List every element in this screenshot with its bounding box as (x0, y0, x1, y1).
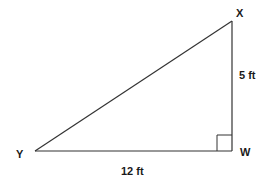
vertex-label-w: W (240, 146, 251, 158)
side-xy-hypotenuse (35, 21, 232, 151)
side-label-xw: 5 ft (239, 69, 256, 81)
right-triangle-diagram: X W Y 5 ft 12 ft (0, 0, 275, 187)
side-label-yw: 12 ft (121, 165, 144, 177)
vertex-label-y: Y (16, 148, 24, 160)
right-angle-marker (217, 135, 232, 151)
vertex-label-x: X (236, 7, 244, 19)
